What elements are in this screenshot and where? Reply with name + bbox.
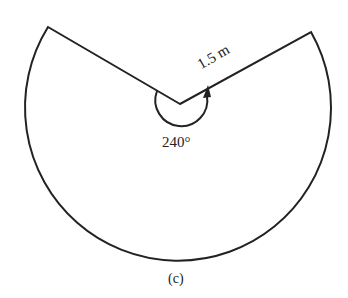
figure-caption: (c) — [168, 271, 184, 287]
angle-label: 240° — [162, 134, 191, 151]
angle-arc — [155, 91, 207, 126]
